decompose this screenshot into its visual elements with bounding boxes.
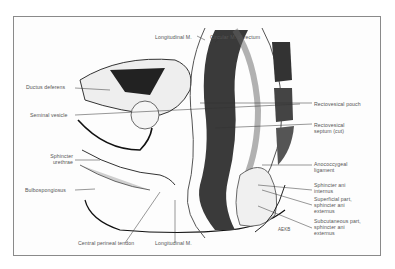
label-central-perineal-tendon: Central perineal tendon: [78, 240, 134, 246]
label-line: urethrae: [40, 159, 73, 165]
label-line: externus: [314, 230, 361, 236]
label-subcutaneous-part-sphincter-ani-externus: Subcutaneous part, sphincter ani externu…: [314, 218, 361, 236]
label-bulbospongiosus: Bulbospongiosus: [25, 187, 66, 193]
label-anococcygeal-ligament: Anococcygeal ligament: [314, 161, 348, 173]
label-superficial-part-sphincter-ani-externus: Superficial part, sphincter ani externus: [314, 196, 352, 214]
label-longitudinal-m-bottom: Longitudinal M.: [155, 240, 192, 246]
label-seminal-vesicle: Seminal vesicle: [30, 112, 68, 118]
label-longitudinal-m-top: Longitudinal M.: [155, 34, 192, 40]
label-rectovesical-pouch: Rectovesical pouch: [314, 101, 361, 107]
label-circular-m-rectum: Circular M. of rectum: [210, 34, 260, 40]
label-line: internus: [314, 188, 346, 194]
label-rectovesical-septum: Rectovesical septum (cut): [314, 122, 345, 134]
label-line: ligament: [314, 167, 348, 173]
label-ductus-deferens: Ductus deferens: [26, 84, 65, 90]
label-line: septum (cut): [314, 128, 345, 134]
label-sphincter-urethrae: Sphincter urethrae: [40, 153, 73, 165]
artist-signature: AEKB: [278, 227, 290, 233]
label-sphincter-ani-internus: Sphincter ani internus: [314, 182, 346, 194]
label-line: externus: [314, 208, 352, 214]
